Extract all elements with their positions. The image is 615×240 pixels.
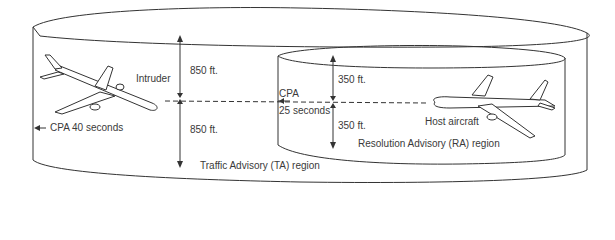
ta-lower-altitude: 850 ft. [190,124,218,136]
cpa-25-label: 25 seconds [279,105,330,117]
host-aircraft-icon [434,75,555,138]
ra-lower-altitude: 350 ft. [338,120,366,132]
cpa-label: CPA [279,88,299,100]
intruder-label: Intruder [136,73,170,85]
ra-upper-altitude: 350 ft. [338,74,366,86]
ta-upper-altitude: 850 ft. [190,65,218,77]
cpa-line [165,101,427,103]
ta-region-label: Traffic Advisory (TA) region [200,160,320,172]
cpa-40-label: CPA 40 seconds [50,122,123,134]
ra-region-label: Resolution Advisory (RA) region [358,138,500,150]
host-aircraft-label: Host aircraft [425,116,479,128]
